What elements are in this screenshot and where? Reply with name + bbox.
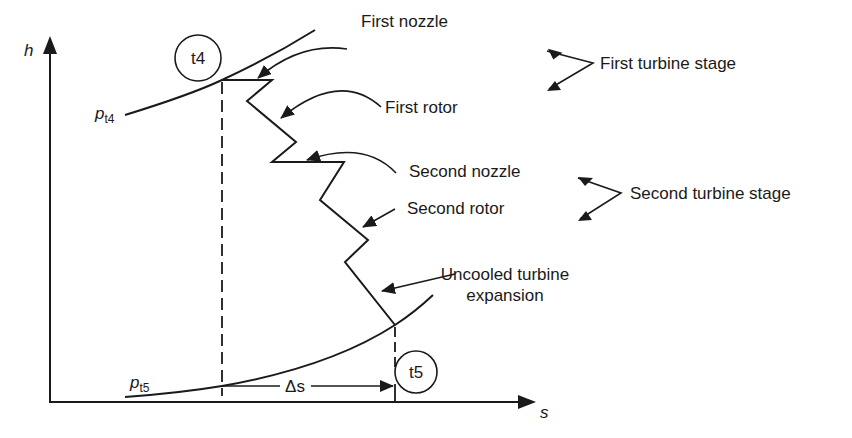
svg-text:t5: t5 [409,363,423,382]
isobar-pt4-label: pt4 [94,104,115,126]
y-axis [43,36,57,403]
callout-second-nozzle: Second nozzle [307,152,521,181]
svg-text:First nozzle: First nozzle [361,12,448,31]
callout-first-nozzle: First nozzle [258,12,448,78]
y-axis-arrowhead-icon [43,36,57,54]
svg-text:Second nozzle: Second nozzle [409,162,521,181]
callout-first-rotor: First rotor [281,91,458,118]
stage-bracket-second: Second turbine stage [578,177,791,221]
svg-text:Uncooled turbine: Uncooled turbine [441,265,570,284]
stage-label-second: Second turbine stage [630,184,791,203]
delta-s-label: Δs [285,377,305,396]
svg-text:expansion: expansion [466,286,544,305]
svg-text:First rotor: First rotor [385,98,458,117]
callout-second-rotor: Second rotor [363,199,505,227]
stage-label-first: First turbine stage [600,54,736,73]
stage-bracket-first: First turbine stage [546,49,736,91]
isobar-pt4-curve [125,30,315,115]
state-t4: t4 [175,35,221,81]
x-axis [49,395,536,409]
svg-text:Second rotor: Second rotor [407,199,505,218]
expansion-path [222,80,395,325]
arrowhead-icon [578,177,593,186]
state-t5: t5 [395,351,437,393]
callout-uncooled-expansion: Uncooled turbine expansion [382,265,569,305]
hs-diagram: h s pt4 pt5 t4 t5 Δs First nozzle First … [0,0,852,438]
isobar-pt5-curve [125,295,433,397]
isobar-pt5-label: pt5 [129,373,150,395]
svg-text:t4: t4 [191,49,205,68]
x-axis-label: s [540,403,549,422]
y-axis-label: h [24,41,33,60]
x-axis-arrowhead-icon [518,395,536,409]
